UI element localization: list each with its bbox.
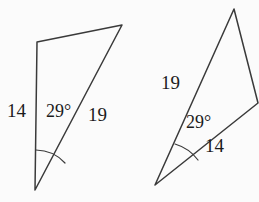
right-triangle-side-label-19: 19	[161, 72, 180, 93]
right-triangle-side-label-14: 14	[205, 135, 225, 156]
left-triangle-side-label-14: 14	[7, 100, 27, 121]
right-triangle: 19 14 29°	[155, 9, 258, 185]
left-triangle: 14 19 29°	[7, 25, 122, 190]
right-triangle-angle-arc	[175, 144, 198, 160]
right-triangle-angle-label: 29°	[186, 112, 211, 132]
triangles-canvas: 14 19 29° 19 14 29°	[0, 0, 259, 202]
left-triangle-angle-label: 29°	[46, 101, 71, 121]
geometry-figure: 14 19 29° 19 14 29°	[0, 0, 259, 202]
right-triangle-outline	[155, 9, 258, 185]
left-triangle-side-label-19: 19	[88, 104, 107, 125]
